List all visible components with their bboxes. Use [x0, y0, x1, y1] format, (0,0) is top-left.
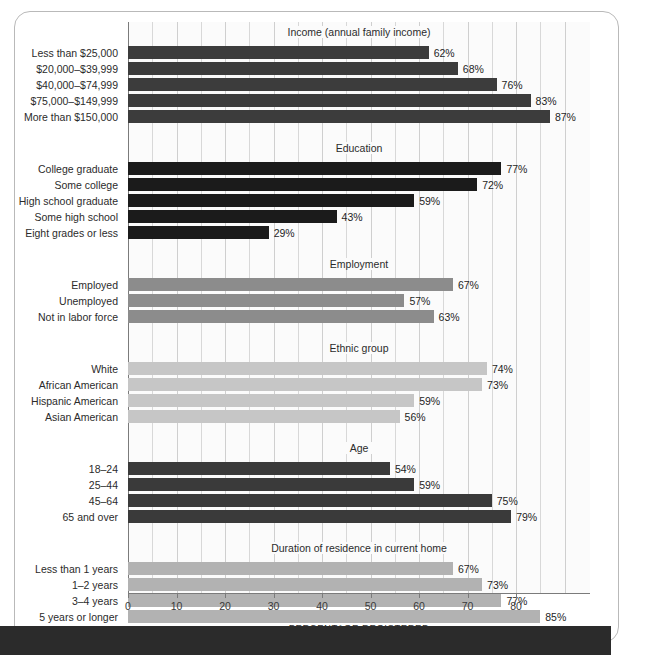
bar-value-label: 54% [395, 463, 416, 475]
bar [128, 478, 414, 491]
category-label: 1–2 years [0, 579, 118, 591]
gridline-25 [249, 22, 250, 593]
category-label: Not in labor force [0, 311, 118, 323]
bar-value-label: 75% [497, 495, 518, 507]
x-axis-line [128, 593, 590, 594]
category-label: $20,000–$39,999 [0, 63, 118, 75]
category-label: 5 years or longer [0, 611, 118, 623]
category-label: $75,000–$149,999 [0, 95, 118, 107]
x-tick-80 [516, 593, 517, 598]
gridline-55 [395, 22, 396, 593]
bar [128, 278, 453, 291]
bar [128, 226, 269, 239]
x-tick-40 [322, 593, 323, 598]
bar [128, 510, 511, 523]
gridline-15 [201, 22, 202, 593]
category-label: 45–64 [0, 495, 118, 507]
chart-plot-area: Income (annual family income)Less than $… [0, 0, 647, 655]
gridline-50 [371, 22, 372, 593]
bar [128, 62, 458, 75]
figure: Income (annual family income)Less than $… [0, 0, 647, 655]
x-tick-label-0: 0 [125, 600, 131, 612]
x-tick-label-10: 10 [171, 600, 183, 612]
bar [128, 310, 434, 323]
category-label: College graduate [0, 163, 118, 175]
x-tick-70 [468, 593, 469, 598]
gridline-35 [298, 22, 299, 593]
gridline-20 [225, 22, 226, 593]
gridline-40 [322, 22, 323, 593]
gridline-75 [492, 22, 493, 593]
bar [128, 394, 414, 407]
bar [128, 578, 482, 591]
category-label: 65 and over [0, 511, 118, 523]
bar-value-label: 77% [506, 163, 527, 175]
category-label: More than $150,000 [0, 111, 118, 123]
bar [128, 462, 390, 475]
category-label: Unemployed [0, 295, 118, 307]
bar-value-label: 57% [409, 295, 430, 307]
bar-value-label: 63% [439, 311, 460, 323]
category-label: Eight grades or less [0, 227, 118, 239]
bar-value-label: 67% [458, 563, 479, 575]
gridline-45 [346, 22, 347, 593]
category-label: White [0, 363, 118, 375]
bar-value-label: 67% [458, 279, 479, 291]
bar-value-label: 43% [342, 211, 363, 223]
category-label: Asian American [0, 411, 118, 423]
gridline-70 [468, 22, 469, 593]
gridline-30 [274, 22, 275, 593]
bar [128, 362, 487, 375]
bar [128, 162, 501, 175]
category-label: African American [0, 379, 118, 391]
gridline-90 [565, 22, 566, 593]
category-label: Less than 1 years [0, 563, 118, 575]
bar [128, 562, 453, 575]
x-tick-10 [177, 593, 178, 598]
x-tick-30 [274, 593, 275, 598]
x-tick-label-80: 80 [510, 600, 522, 612]
category-label: Less than $25,000 [0, 47, 118, 59]
bar-value-label: 83% [536, 95, 557, 107]
gridline-5 [152, 22, 153, 593]
x-tick-0 [128, 593, 129, 598]
x-tick-label-40: 40 [316, 600, 328, 612]
x-tick-label-60: 60 [413, 600, 425, 612]
gridline-65 [443, 22, 444, 593]
bar-value-label: 59% [419, 195, 440, 207]
bar [128, 78, 497, 91]
x-tick-20 [225, 593, 226, 598]
category-label: High school graduate [0, 195, 118, 207]
bar-value-label: 73% [487, 379, 508, 391]
category-label: Employed [0, 279, 118, 291]
bar-value-label: 79% [516, 511, 537, 523]
bar [128, 210, 337, 223]
bar-value-label: 56% [405, 411, 426, 423]
bar-value-label: 87% [555, 111, 576, 123]
category-label: Some college [0, 179, 118, 191]
bar [128, 194, 414, 207]
bottom-banner [0, 626, 611, 655]
bar-value-label: 59% [419, 395, 440, 407]
category-label: 18–24 [0, 463, 118, 475]
x-tick-60 [419, 593, 420, 598]
x-tick-50 [371, 593, 372, 598]
x-tick-label-50: 50 [365, 600, 377, 612]
bar [128, 494, 492, 507]
bar [128, 178, 477, 191]
bar [128, 410, 400, 423]
category-label: Hispanic American [0, 395, 118, 407]
bar-value-label: 29% [274, 227, 295, 239]
bar-value-label: 62% [434, 47, 455, 59]
gridline-10 [177, 22, 178, 593]
bar [128, 294, 404, 307]
bar [128, 94, 531, 107]
bar [128, 378, 482, 391]
x-tick-label-30: 30 [268, 600, 280, 612]
bar-value-label: 59% [419, 479, 440, 491]
category-label: 25–44 [0, 479, 118, 491]
bar-value-label: 72% [482, 179, 503, 191]
plot-background [128, 22, 590, 593]
x-tick-label-70: 70 [462, 600, 474, 612]
bar-value-label: 76% [502, 79, 523, 91]
